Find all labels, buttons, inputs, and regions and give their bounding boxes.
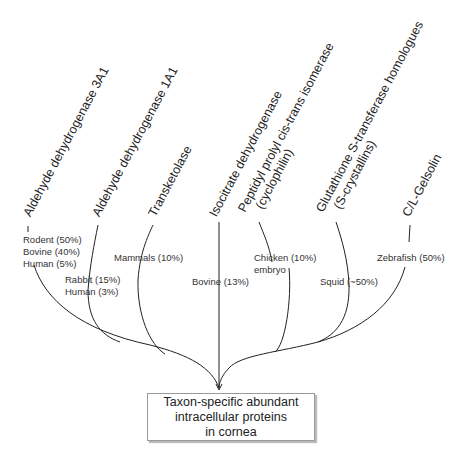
branch-peptidyl-lower: [275, 268, 290, 352]
taxon-human: Human (5%): [23, 258, 82, 270]
taxon-rabbit: Rabbit (15%): [65, 274, 120, 286]
root-line-1: Taxon-specific abundant: [148, 395, 314, 410]
taxon-mammals: Mammals (10%): [114, 252, 183, 264]
taxa-peptidyl: Chicken (10%) embryo: [254, 252, 316, 276]
root-line-2: intracellular proteins: [148, 410, 314, 425]
taxon-rodent: Rodent (50%): [23, 234, 82, 246]
taxa-aldh1a1: Rabbit (15%) Human (3%): [65, 274, 120, 298]
trunk-right: [219, 342, 318, 388]
taxon-chicken: Chicken (10%): [254, 252, 316, 264]
taxa-gst: Squid (~50%): [320, 276, 378, 288]
taxon-bovine: Bovine (13%): [192, 276, 249, 288]
taxon-squid: Squid (~50%): [320, 276, 378, 288]
branch-transketolase: [138, 225, 165, 354]
root-line-3: in cornea: [148, 425, 314, 440]
root-node-box: Taxon-specific abundant intracellular pr…: [147, 393, 315, 441]
taxon-bovine: Bovine (40%): [23, 246, 82, 258]
taxon-embryo: embryo: [254, 264, 316, 276]
taxa-isocitrate: Bovine (13%): [192, 276, 249, 288]
taxa-transketolase: Mammals (10%): [114, 252, 183, 264]
taxon-zebrafish: Zebrafish (50%): [377, 252, 445, 264]
taxa-gelsolin: Zebrafish (50%): [377, 252, 445, 264]
taxa-aldh3a1: Rodent (50%) Bovine (40%) Human (5%): [23, 234, 82, 270]
taxon-human: Human (3%): [65, 286, 120, 298]
branch-gelsolin: [409, 225, 410, 242]
